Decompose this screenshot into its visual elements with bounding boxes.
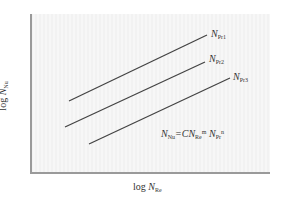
ylabel-sub: Nu (3, 81, 9, 88)
xlabel-prefix: log (133, 181, 148, 192)
label-pr2-main: N (209, 53, 216, 64)
x-axis-label: log NRe (133, 181, 162, 193)
label-pr1: NPr1 (211, 28, 226, 40)
formula-eq: =C (175, 128, 188, 139)
label-pr3-main: N (233, 71, 240, 82)
series-lines (0, 0, 285, 200)
formula-n2: N (209, 128, 216, 139)
formula-n1-sup: m (202, 129, 207, 135)
xlabel-sub: Re (155, 187, 162, 193)
xlabel-main: N (148, 181, 155, 192)
line-pr1 (69, 35, 207, 101)
label-pr1-main: N (211, 28, 218, 39)
label-pr2-sub: Pr2 (216, 59, 224, 65)
ylabel-main: N (0, 89, 8, 96)
equation-annotation: NNu=CNRem NPrn (161, 128, 224, 140)
ylabel-prefix: log (0, 95, 8, 110)
formula-lhs: N (161, 128, 168, 139)
label-pr3-sub: Pr3 (240, 77, 248, 83)
line-pr2 (65, 62, 205, 127)
label-pr1-sub: Pr1 (218, 34, 226, 40)
formula-lhs-sub: Nu (168, 134, 175, 140)
formula-n1-sub: Re (195, 134, 202, 140)
label-pr3: NPr3 (233, 71, 248, 83)
y-axis-label: log NNu (0, 81, 9, 110)
formula-n2-sup: n (221, 129, 224, 135)
label-pr2: NPr2 (209, 53, 224, 65)
